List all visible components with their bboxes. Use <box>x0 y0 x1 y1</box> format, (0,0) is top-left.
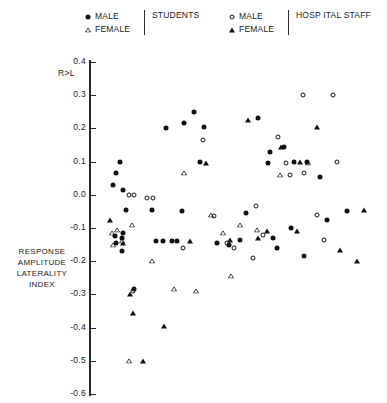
filled-circle-marker <box>255 115 262 122</box>
filled-circle-marker <box>162 125 169 132</box>
filled-circle-marker <box>112 239 119 246</box>
open-circle-marker <box>211 213 218 220</box>
open-circle-marker <box>231 244 238 251</box>
y-tick-mark <box>91 162 96 163</box>
legend-entry-male-staff: MALE <box>226 10 274 23</box>
open-triangle-marker <box>114 226 121 233</box>
filled-circle-marker <box>301 253 308 260</box>
filled-circle-marker <box>197 158 204 165</box>
y-tick-mark <box>91 394 96 395</box>
open-circle-marker <box>333 158 340 165</box>
open-triangle-marker <box>118 238 125 245</box>
filled-circle-marker <box>288 225 295 232</box>
open-circle-marker <box>282 160 289 167</box>
filled-triangle-marker <box>264 228 271 235</box>
open-triangle-marker <box>254 226 261 233</box>
filled-triangle-marker <box>360 206 367 213</box>
filled-circle-marker <box>281 143 288 150</box>
legend-label: MALE <box>95 11 119 22</box>
filled-triangle-marker <box>202 160 209 167</box>
filled-triangle-marker <box>107 216 114 223</box>
y-axis-line <box>89 60 91 396</box>
filled-circle-marker <box>178 208 185 215</box>
filled-circle-marker <box>343 208 350 215</box>
open-circle-marker <box>313 211 320 218</box>
filled-triangle-marker <box>255 234 262 241</box>
open-circle-marker <box>249 254 256 261</box>
filled-circle-marker <box>225 241 232 248</box>
filled-triangle-marker <box>187 238 194 245</box>
legend-category-students: STUDENTS <box>152 10 199 21</box>
open-circle-marker <box>321 236 328 243</box>
filled-circle-marker <box>131 286 138 293</box>
legend-entry-female-students: FEMALE <box>82 23 130 36</box>
open-triangle-marker <box>228 273 235 280</box>
open-circle-marker <box>286 171 293 178</box>
legend-entry-female-staff: FEMALE <box>226 23 274 36</box>
filled-triangle-marker <box>353 258 360 265</box>
open-circle-marker <box>301 170 308 177</box>
filled-triangle-marker <box>120 239 127 246</box>
open-circle-marker <box>131 191 138 198</box>
open-triangle-marker <box>208 211 215 218</box>
filled-triangle-marker <box>140 357 147 364</box>
filled-circle-marker <box>191 108 198 115</box>
filled-circle-marker <box>117 158 124 165</box>
open-circle-marker <box>259 231 266 238</box>
filled-circle-marker <box>266 148 273 155</box>
open-triangle-marker <box>125 357 132 364</box>
filled-circle-marker <box>303 158 310 165</box>
filled-circle-marker <box>273 244 280 251</box>
open-circle-marker <box>252 203 259 210</box>
open-triangle-marker <box>128 221 135 228</box>
open-triangle-marker <box>305 160 312 167</box>
filled-circle-marker <box>236 236 243 243</box>
filled-circle-marker <box>122 206 129 213</box>
open-triangle-marker <box>219 229 226 236</box>
y-tick-mark <box>91 128 96 129</box>
y-axis-title-line: AMPLITUDE <box>6 257 78 268</box>
filled-triangle-icon <box>226 24 237 35</box>
filled-circle-marker <box>291 158 298 165</box>
filled-triangle-marker <box>245 117 252 124</box>
filled-circle-marker <box>112 170 119 177</box>
filled-circle-marker <box>174 238 181 245</box>
open-circle-marker <box>275 133 282 140</box>
open-circle-marker <box>224 239 231 246</box>
filled-circle-marker <box>242 210 249 217</box>
filled-circle-marker <box>201 123 208 130</box>
legend-category-hospital-staff: HOSP ITAL STAFF <box>296 10 371 21</box>
filled-circle-marker <box>111 233 118 240</box>
y-tick-mark <box>91 294 96 295</box>
filled-circle-icon <box>82 11 93 22</box>
y-tick-mark <box>91 195 96 196</box>
open-circle-marker <box>130 288 137 295</box>
filled-triangle-marker <box>130 309 137 316</box>
open-circle-marker <box>199 137 206 144</box>
open-circle-icon <box>226 11 237 22</box>
filled-circle-marker <box>214 239 221 246</box>
y-tick-mark <box>91 228 96 229</box>
y-axis-title-line: LATERALITY <box>6 268 78 279</box>
filled-triangle-marker <box>278 143 285 150</box>
y-axis-title-line: RESPONSE <box>6 246 78 257</box>
filled-triangle-marker <box>293 228 300 235</box>
open-circle-marker <box>329 92 336 99</box>
open-triangle-marker <box>276 171 283 178</box>
open-circle-marker <box>150 195 157 202</box>
filled-circle-marker <box>120 186 127 193</box>
filled-circle-marker <box>316 173 323 180</box>
plot-area: R>L 0.40.30.20.10.0-0.1-0.2-0.3-0.4-0.5-… <box>0 0 387 403</box>
open-triangle-marker <box>192 288 199 295</box>
open-triangle-icon <box>82 24 93 35</box>
r-greater-than-l-annotation: R>L <box>58 68 75 78</box>
filled-triangle-marker <box>313 123 320 130</box>
filled-circle-marker <box>110 181 117 188</box>
y-tick-mark <box>91 328 96 329</box>
open-triangle-marker <box>236 221 243 228</box>
filled-triangle-marker <box>127 291 134 298</box>
legend-divider <box>288 10 289 35</box>
filled-circle-marker <box>120 229 127 236</box>
open-circle-marker <box>144 195 151 202</box>
open-triangle-marker <box>108 229 115 236</box>
